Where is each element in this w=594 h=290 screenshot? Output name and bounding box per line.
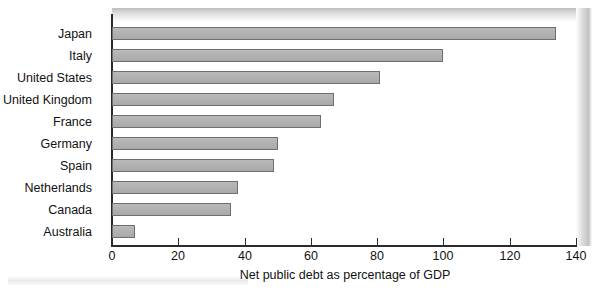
x-tick-120 (510, 238, 511, 246)
x-tick-label-100: 100 (433, 249, 454, 263)
category-label-united-kingdom: United Kingdom (0, 93, 92, 107)
x-tick-100 (443, 238, 444, 246)
x-tick-label-120: 120 (500, 249, 521, 263)
x-axis-line (111, 245, 577, 247)
bar-united-states (112, 71, 380, 84)
category-label-japan: Japan (0, 27, 92, 41)
x-tick-label-20: 20 (171, 249, 185, 263)
x-tick-label-80: 80 (370, 249, 384, 263)
x-tick-label-140: 140 (566, 249, 587, 263)
x-tick-60 (311, 238, 312, 246)
bar-germany (112, 137, 278, 150)
x-tick-20 (178, 238, 179, 246)
bar-france (112, 115, 321, 128)
bar-canada (112, 203, 231, 216)
bar-italy (112, 49, 443, 62)
x-tick-140 (576, 238, 577, 246)
category-label-spain: Spain (0, 159, 92, 173)
category-label-netherlands: Netherlands (0, 181, 92, 195)
bar-united-kingdom (112, 93, 334, 106)
x-tick-label-40: 40 (238, 249, 252, 263)
x-tick-80 (377, 238, 378, 246)
scan-shading-top (112, 8, 588, 22)
category-label-united-states: United States (0, 71, 92, 85)
bar-spain (112, 159, 274, 172)
category-label-canada: Canada (0, 203, 92, 217)
x-tick-0 (112, 238, 113, 246)
bar-chart-figure: JapanItalyUnited StatesUnited KingdomFra… (0, 0, 594, 290)
x-axis-title: Net public debt as percentage of GDP (112, 268, 578, 282)
category-label-germany: Germany (0, 137, 92, 151)
category-label-france: France (0, 115, 92, 129)
x-tick-40 (245, 238, 246, 246)
category-label-australia: Australia (0, 225, 92, 239)
bar-australia (112, 225, 135, 238)
scan-shading-right (576, 8, 592, 246)
bar-netherlands (112, 181, 238, 194)
bar-japan (112, 27, 556, 40)
category-label-italy: Italy (0, 49, 92, 63)
x-tick-label-0: 0 (109, 249, 116, 263)
x-tick-label-60: 60 (304, 249, 318, 263)
